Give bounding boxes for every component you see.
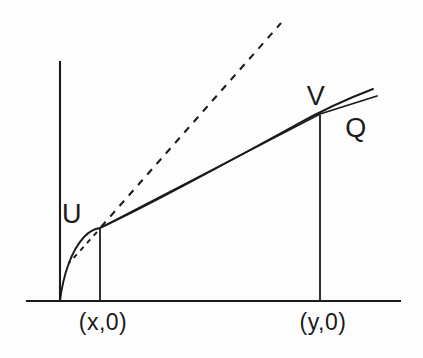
tick-label-y: (y,0): [300, 309, 347, 335]
point-label-q: Q: [345, 113, 367, 143]
tick-label-x: (x,0): [79, 309, 128, 335]
point-label-v: V: [307, 81, 326, 111]
tangent-line-at-u-lower: [69, 232, 97, 263]
tangent-line-at-u: [101, 23, 281, 227]
math-figure: U V Q (x,0) (y,0): [0, 0, 423, 358]
point-label-u: U: [62, 199, 82, 229]
concave-curve: [60, 89, 373, 301]
diagram-canvas: U V Q (x,0) (y,0): [0, 0, 423, 358]
